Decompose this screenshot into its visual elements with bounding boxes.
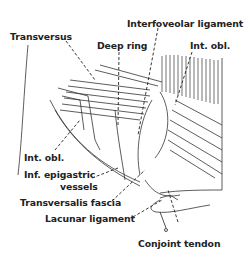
label-deep-ring: Deep ring [97, 41, 147, 51]
label-inf-epigastric: Inf. epigastric [24, 170, 95, 180]
label-lacunar-ligament: Lacunar ligament [45, 214, 135, 224]
label-int-obl-left: Int. obl. [24, 153, 64, 163]
label-vessels: vessels [60, 182, 98, 192]
anatomy-figure: Transversus Interfoveolar ligament Deep … [0, 0, 244, 257]
label-transversus: Transversus [10, 32, 72, 42]
label-transversalis-fascia: Transversalis fascia [20, 198, 121, 208]
label-conjoint-tendon: Conjoint tendon [138, 239, 220, 249]
label-interfoveolar-ligament: Interfoveolar ligament [127, 19, 243, 29]
label-int-obl-top: Int. obl. [190, 41, 230, 51]
